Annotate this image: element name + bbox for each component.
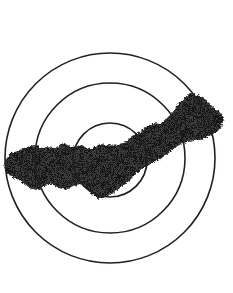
- diagram-canvas: [0, 0, 233, 293]
- figure-container: [0, 0, 233, 293]
